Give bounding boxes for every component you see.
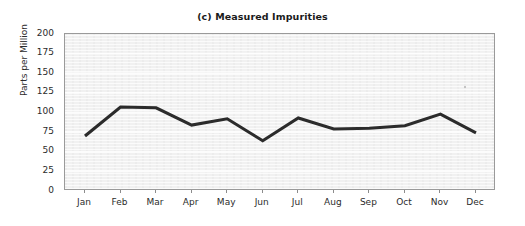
x-axis-tick-mark xyxy=(404,190,405,193)
y-axis-tick-label: 100 xyxy=(37,106,54,117)
x-axis-tick-mark xyxy=(84,190,85,193)
chart-figure: (c) Measured Impurities Parts per Millio… xyxy=(0,0,525,226)
y-axis-tick-label: 175 xyxy=(37,47,54,58)
y-axis-tick-label: 150 xyxy=(37,67,54,78)
x-axis-tick-label: Sep xyxy=(360,196,377,208)
y-axis-tick-label: 125 xyxy=(37,86,54,97)
x-axis-tick-mark xyxy=(333,190,334,193)
x-axis-tick-label: Apr xyxy=(183,196,199,208)
x-axis-tick-marks xyxy=(64,190,495,194)
gridlines xyxy=(65,54,495,172)
y-axis-tick-label: 25 xyxy=(43,165,54,176)
y-axis-tick-labels: 0255075100125150175200 xyxy=(0,0,62,226)
x-axis-tick-labels: JanFebMarAprMayJunJulAugSepOctNovDec xyxy=(64,196,495,210)
x-axis-tick-mark xyxy=(226,190,227,193)
x-axis-tick-label: Oct xyxy=(396,196,412,208)
y-axis-tick-label: 50 xyxy=(43,145,54,156)
x-axis-tick-label: Feb xyxy=(112,196,128,208)
x-axis-tick-mark xyxy=(191,190,192,193)
x-axis-tick-mark xyxy=(155,190,156,193)
x-axis-tick-label: Dec xyxy=(466,196,483,208)
x-axis-tick-label: May xyxy=(217,196,236,208)
y-axis-tick-label: 75 xyxy=(43,126,54,137)
x-axis-tick-label: Jan xyxy=(77,196,91,208)
x-axis-tick-mark xyxy=(368,190,369,193)
x-axis-tick-mark xyxy=(297,190,298,193)
scan-speck-artifact xyxy=(464,86,466,88)
x-axis-tick-label: Mar xyxy=(147,196,164,208)
x-axis-tick-label: Aug xyxy=(324,196,342,208)
x-axis-tick-label: Nov xyxy=(431,196,449,208)
x-axis-tick-mark xyxy=(439,190,440,193)
x-axis-tick-mark xyxy=(475,190,476,193)
x-axis-tick-label: Jun xyxy=(255,196,269,208)
x-axis-tick-label: Jul xyxy=(292,196,303,208)
y-axis-tick-label: 200 xyxy=(37,28,54,39)
plot-area xyxy=(64,33,495,190)
x-axis-tick-mark xyxy=(120,190,121,193)
chart-title: (c) Measured Impurities xyxy=(0,11,525,22)
plot-svg xyxy=(65,34,495,190)
x-axis-tick-mark xyxy=(262,190,263,193)
y-axis-tick-label: 0 xyxy=(48,185,54,196)
